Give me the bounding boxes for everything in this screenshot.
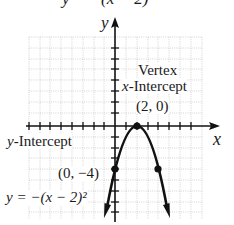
equation-label: y = −(x − 2)² [6,190,87,205]
y-intercept-point [111,165,118,172]
symmetric-point [154,165,161,172]
x-axis-label: x [213,132,221,147]
y-intercept-label: y-Intercept [7,134,72,149]
vertex-point [133,122,140,129]
y-intercept-coordinates: (0, −4) [58,166,99,181]
vertex-coordinates: (2, 0) [136,99,169,114]
vertex-label: Vertex [138,63,177,78]
title-equation: y = −(x − 2)² [62,0,153,7]
y-axis-label: y [101,15,109,30]
x-intercept-label: x-Intercept [122,79,187,94]
arrowhead-right [163,203,170,218]
arrowhead-left [104,203,111,218]
